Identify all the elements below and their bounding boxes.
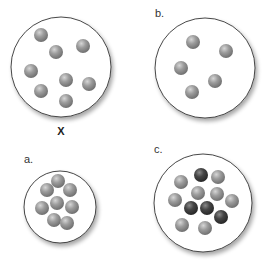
light-particle	[174, 175, 188, 189]
dark-particle	[194, 168, 208, 182]
panel-b: b.	[155, 7, 255, 118]
light-particle	[59, 94, 73, 108]
light-particle	[50, 196, 64, 210]
light-particle	[219, 44, 233, 58]
light-particle	[34, 28, 48, 42]
light-particle	[198, 221, 212, 235]
label-a: a.	[24, 153, 33, 165]
light-particle	[175, 218, 189, 232]
panel-x: X	[11, 17, 111, 137]
light-particle	[49, 45, 63, 59]
light-particle	[60, 216, 74, 230]
particle-diagram: X b. a. c.	[0, 0, 265, 262]
light-particle	[65, 200, 79, 214]
dark-particle	[184, 201, 198, 215]
dark-particle	[214, 210, 228, 224]
dark-particle	[200, 201, 214, 215]
light-particle	[59, 73, 73, 87]
label-c: c.	[154, 143, 163, 155]
container-b	[155, 18, 255, 118]
light-particle	[211, 170, 225, 184]
light-particle	[208, 74, 222, 88]
light-particle	[51, 174, 65, 188]
label-b: b.	[155, 7, 164, 19]
light-particle	[34, 84, 48, 98]
label-x: X	[57, 125, 65, 137]
light-particle	[24, 64, 38, 78]
panel-a: a.	[24, 153, 96, 243]
light-particle	[76, 39, 90, 53]
light-particle	[63, 183, 77, 197]
light-particle	[174, 61, 188, 75]
light-particle	[82, 77, 96, 91]
light-particle	[35, 201, 49, 215]
light-particle	[225, 194, 239, 208]
light-particle	[185, 85, 199, 99]
light-particle	[210, 187, 224, 201]
light-particle	[47, 213, 61, 227]
light-particle	[191, 186, 205, 200]
panel-c: c.	[154, 143, 252, 252]
light-particle	[186, 35, 200, 49]
light-particle	[168, 193, 182, 207]
light-particle	[40, 183, 54, 197]
